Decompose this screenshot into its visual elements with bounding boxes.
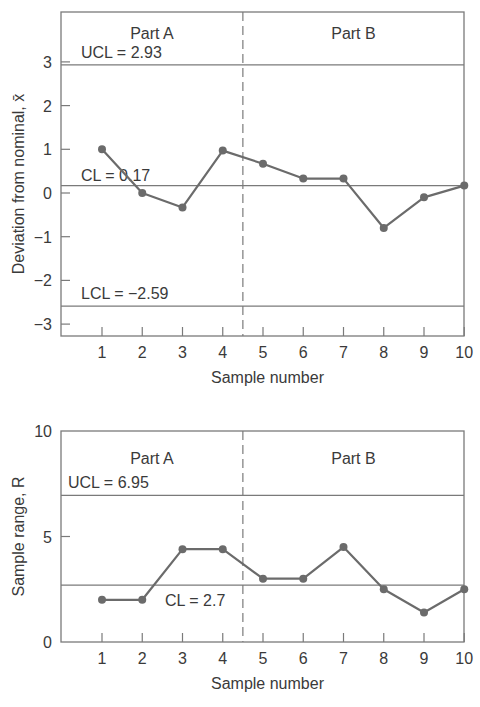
- data-point: [340, 543, 348, 551]
- x-tick-label: 6: [299, 344, 308, 361]
- x-tick-label: 1: [98, 650, 107, 667]
- data-point: [460, 182, 468, 190]
- data-point: [420, 193, 428, 201]
- x-tick-label: 5: [259, 650, 268, 667]
- y-axis-label: Deviation from nominal, x̄: [10, 94, 27, 275]
- x-tick-label: 2: [138, 650, 147, 667]
- x-tick-label: 1: [98, 344, 107, 361]
- data-point: [138, 189, 146, 197]
- ucl-label: UCL = 6.95: [68, 474, 149, 491]
- y-tick-label: 10: [34, 423, 52, 440]
- x-tick-label: 9: [420, 650, 429, 667]
- data-point: [340, 175, 348, 183]
- x-tick-label: 8: [379, 344, 388, 361]
- data-point: [380, 585, 388, 593]
- x-tick-label: 7: [339, 344, 348, 361]
- region-label-part-b: Part B: [331, 25, 375, 42]
- y-tick-label: 3: [43, 54, 52, 71]
- data-point: [98, 145, 106, 153]
- x-tick-label: 3: [178, 344, 187, 361]
- y-tick-label: −3: [34, 316, 52, 333]
- data-point: [299, 575, 307, 583]
- lcl-label: LCL = −2.59: [81, 285, 169, 302]
- region-label-part-b: Part B: [331, 450, 375, 467]
- cl-label: CL = 0.17: [81, 167, 150, 184]
- data-point: [259, 575, 267, 583]
- data-point: [460, 585, 468, 593]
- y-tick-label: 5: [43, 529, 52, 546]
- y-tick-label: 2: [43, 98, 52, 115]
- y-tick-label: 0: [43, 185, 52, 202]
- cl-label: CL = 2.7: [165, 592, 225, 609]
- region-label-part-a: Part A: [130, 25, 174, 42]
- x-tick-label: 10: [455, 344, 473, 361]
- data-point: [299, 175, 307, 183]
- data-point: [380, 224, 388, 232]
- y-tick-label: 0: [43, 634, 52, 651]
- x-tick-label: 3: [178, 650, 187, 667]
- region-label-part-a: Part A: [130, 450, 174, 467]
- xbar-chart: 3210−1−2−312345678910Sample numberDeviat…: [10, 12, 473, 386]
- range-chart: 105012345678910Sample numberSample range…: [10, 423, 473, 692]
- data-line: [102, 547, 464, 612]
- x-tick-label: 6: [299, 650, 308, 667]
- x-tick-label: 4: [218, 650, 227, 667]
- plot-frame: [61, 431, 464, 642]
- data-point: [259, 160, 267, 168]
- data-point: [420, 608, 428, 616]
- x-axis-label: Sample number: [211, 369, 325, 386]
- data-point: [138, 596, 146, 604]
- control-charts: 3210−1−2−312345678910Sample numberDeviat…: [0, 0, 480, 707]
- x-tick-label: 5: [259, 344, 268, 361]
- x-tick-label: 9: [420, 344, 429, 361]
- x-tick-label: 8: [379, 650, 388, 667]
- y-axis-label: Sample range, R: [10, 476, 27, 596]
- y-tick-label: −1: [34, 229, 52, 246]
- x-tick-label: 4: [218, 344, 227, 361]
- data-point: [219, 147, 227, 155]
- data-point: [179, 545, 187, 553]
- data-point: [219, 545, 227, 553]
- data-point: [179, 203, 187, 211]
- x-axis-label: Sample number: [211, 675, 325, 692]
- x-tick-label: 10: [455, 650, 473, 667]
- x-tick-label: 2: [138, 344, 147, 361]
- data-line: [102, 149, 464, 228]
- ucl-label: UCL = 2.93: [81, 44, 162, 61]
- x-tick-label: 7: [339, 650, 348, 667]
- y-tick-label: −2: [34, 272, 52, 289]
- y-tick-label: 1: [43, 141, 52, 158]
- data-point: [98, 596, 106, 604]
